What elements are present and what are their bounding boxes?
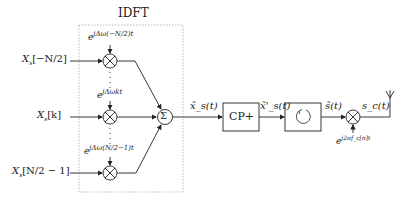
idft-title: IDFT <box>118 6 149 20</box>
exp-label-3: ejΔω(N/2−1)t <box>84 144 134 156</box>
sum-symbol: Σ <box>160 110 167 121</box>
carrier-label: ej2πf_c[n]t <box>336 134 371 146</box>
input-label-3: Xs[N/2 − 1] <box>12 165 70 178</box>
signal-after-rotate: s̃(t) <box>325 100 342 111</box>
input-label-1: Xs[−N/2] <box>22 53 67 66</box>
signal-output: s_c(t) <box>362 100 390 111</box>
signal-after-idft: x̃_s(t) <box>190 100 218 111</box>
multiplier-1 <box>103 54 117 68</box>
exp-label-1: ejΔω(−N/2)t <box>88 30 133 42</box>
multiplier-2 <box>103 110 117 124</box>
exp-label-2: ejΔωkt <box>97 88 122 100</box>
signal-after-cp: x̃'_s(t) <box>260 100 290 111</box>
rotate-block <box>285 103 321 131</box>
carrier-mixer <box>346 110 360 124</box>
input-label-2: Xs[k] <box>37 109 61 122</box>
cp-block-label: CP+ <box>229 110 254 123</box>
idft-box <box>79 25 183 192</box>
multiplier-3 <box>103 166 117 180</box>
antenna-icon <box>386 90 394 98</box>
